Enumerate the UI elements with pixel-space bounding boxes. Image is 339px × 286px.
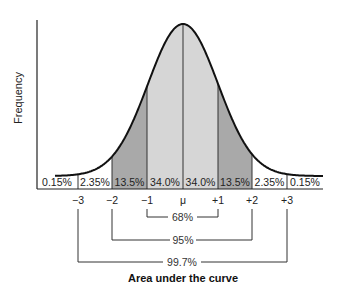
region-minus1-mu bbox=[147, 0, 183, 189]
bracket-95-right bbox=[196, 209, 252, 240]
region-mu-plus1 bbox=[183, 0, 218, 189]
percent-label: 2.35% bbox=[255, 176, 285, 188]
percent-label: 34.0% bbox=[150, 176, 180, 188]
shaded-regions bbox=[112, 0, 252, 189]
bracket-68-left bbox=[147, 209, 168, 217]
percent-label: 0.15% bbox=[42, 176, 72, 188]
bracket-label-95: 95% bbox=[172, 234, 193, 246]
normal-distribution-chart: Frequency 0.15% 2.35% 13.5% 34.0% 34.0% … bbox=[0, 0, 339, 286]
bracket-68-right bbox=[197, 209, 218, 217]
region-minus2-minus1 bbox=[112, 0, 147, 189]
tick-label: μ bbox=[180, 194, 186, 206]
tick-label: −1 bbox=[141, 194, 153, 206]
tick-label: −2 bbox=[106, 194, 118, 206]
percent-label: 13.5% bbox=[220, 176, 250, 188]
tick-label: −3 bbox=[72, 194, 84, 206]
tick-label: +3 bbox=[281, 194, 293, 206]
percent-label: 0.15% bbox=[290, 176, 320, 188]
tick-label: +1 bbox=[212, 194, 224, 206]
percent-label: 13.5% bbox=[115, 176, 145, 188]
x-tick-labels: −3 −2 −1 μ +1 +2 +3 bbox=[72, 194, 293, 206]
bracket-label-68: 68% bbox=[172, 211, 193, 223]
bracket-label-99-7: 99.7% bbox=[167, 256, 197, 268]
y-axis-label: Frequency bbox=[12, 72, 24, 124]
percent-label: 2.35% bbox=[80, 176, 110, 188]
bracket-95-left bbox=[112, 209, 170, 240]
tick-label: +2 bbox=[246, 194, 258, 206]
sigma-dividers bbox=[78, 24, 287, 189]
chart-title: Area under the curve bbox=[128, 272, 238, 284]
percent-label: 34.0% bbox=[186, 176, 216, 188]
